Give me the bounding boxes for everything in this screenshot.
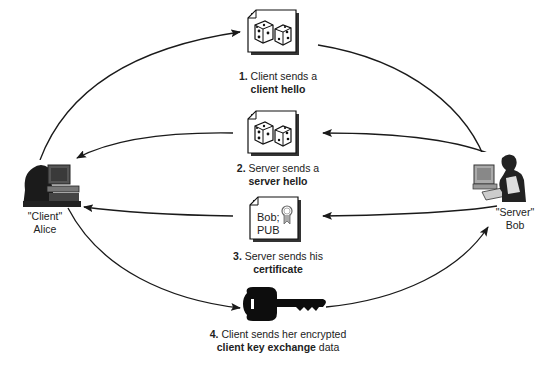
client-alice-icon — [23, 160, 81, 207]
step4-number: 4. — [210, 328, 219, 340]
certificate-owner-text: Bob; PUB — [257, 211, 280, 237]
step3-message: certificate — [253, 263, 303, 275]
arrow-step2-to-client — [77, 133, 233, 158]
arrow-step1-to-server — [318, 45, 488, 168]
step2-caption: 2. Server sends a server hello — [225, 162, 331, 188]
arrow-step3-to-client — [84, 207, 233, 216]
step1-text: Client sends a — [251, 70, 318, 82]
server-hello-document-icon — [248, 111, 299, 156]
arrow-step3-from-server — [323, 206, 497, 216]
client-label: "Client" Alice — [20, 210, 70, 236]
step1-caption: 1. Client sends a client hello — [228, 70, 328, 96]
client-name: Alice — [20, 223, 70, 236]
step2-message: server hello — [249, 175, 308, 187]
server-name: Bob — [488, 219, 542, 232]
server-role: "Server" — [488, 206, 542, 219]
arrow-step4-to-server — [326, 227, 488, 307]
client-role: "Client" — [20, 210, 70, 223]
step2-text: Server sends a — [249, 162, 320, 174]
server-label: "Server" Bob — [488, 206, 542, 232]
step4-text: Client sends her encrypted — [221, 328, 346, 340]
server-bob-icon — [472, 152, 528, 202]
key-icon — [243, 287, 326, 321]
step3-text: Server sends his — [245, 250, 323, 262]
step2-number: 2. — [237, 162, 246, 174]
step4-suffix: data — [316, 341, 339, 353]
step3-number: 3. — [233, 250, 242, 262]
step1-number: 1. — [239, 70, 248, 82]
arrow-step1-to-doc — [40, 32, 240, 160]
arrow-step2-from-server — [323, 133, 497, 157]
certificate-line2: PUB — [257, 224, 280, 237]
step4-message: client key exchange — [217, 341, 316, 353]
arrow-step4-from-client — [68, 208, 240, 308]
client-hello-document-icon — [248, 10, 299, 55]
step3-caption: 3. Server sends his certificate — [220, 250, 336, 276]
step4-caption: 4. Client sends her encrypted client key… — [188, 328, 368, 354]
step1-message: client hello — [251, 83, 306, 95]
certificate-line1: Bob; — [257, 211, 280, 224]
